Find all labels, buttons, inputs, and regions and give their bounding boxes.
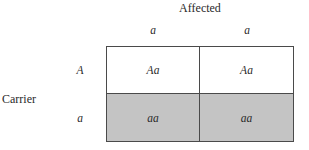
row-allele-1: A [72, 63, 88, 77]
cell-r1-c1: Aa [107, 47, 200, 94]
column-allele-2: a [200, 23, 294, 37]
cell-r2-c1: aa [107, 94, 200, 141]
punnett-square-grid: Aa Aa aa aa [106, 46, 294, 142]
cell-r2-c2: aa [200, 94, 293, 141]
row-allele-2: a [72, 111, 88, 125]
column-parent-label: Affected [150, 1, 250, 15]
cell-r1-c2: Aa [200, 47, 293, 94]
row-parent-label: Carrier [2, 92, 36, 106]
column-allele-1: a [106, 23, 200, 37]
